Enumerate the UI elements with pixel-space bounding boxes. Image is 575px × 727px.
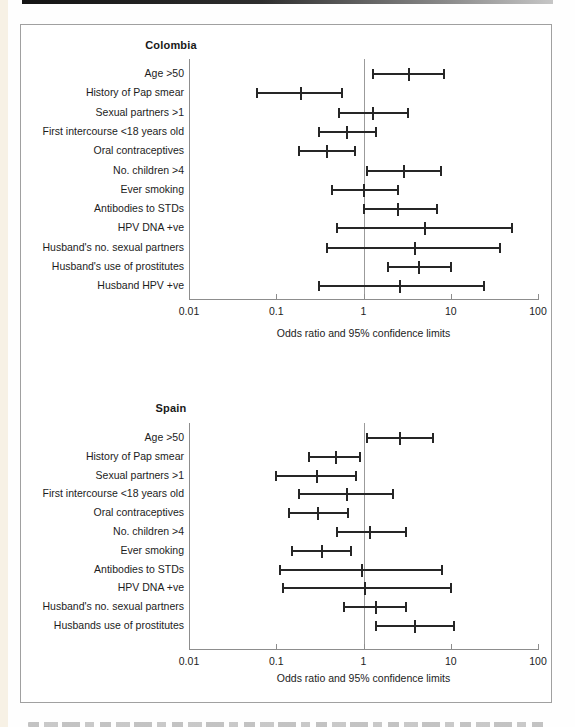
odds-ratio-marker (346, 126, 348, 139)
x-axis-tick (364, 644, 365, 649)
x-axis-line (189, 299, 539, 300)
x-axis-title: Odds ratio and 95% confidence limits (277, 327, 450, 339)
odds-ratio-marker (372, 107, 374, 120)
ci-lower-cap (298, 489, 300, 499)
row-label: No. children >4 (23, 525, 184, 537)
odds-ratio-marker (316, 470, 318, 483)
ci-upper-cap (347, 508, 349, 518)
row-label: Age >50 (23, 67, 184, 79)
ci-lower-cap (372, 69, 374, 79)
row-label: First intercourse <18 years old (23, 487, 184, 499)
ci-lower-cap (288, 508, 290, 518)
ci-upper-cap (407, 108, 409, 118)
ci-lower-cap (275, 471, 277, 481)
row-label: Age >50 (23, 431, 184, 443)
ci-upper-cap (359, 452, 361, 462)
odds-ratio-marker (403, 165, 405, 178)
x-tick-label: 10 (445, 655, 457, 667)
ci-upper-cap (354, 146, 356, 156)
ci-upper-cap (397, 185, 399, 195)
ci-error-bar (337, 531, 407, 533)
ci-upper-cap (432, 433, 434, 443)
ci-upper-cap (441, 565, 443, 575)
panel-title: Colombia (101, 39, 241, 51)
page-edge-strip (0, 0, 8, 727)
x-axis-line (189, 649, 539, 650)
row-label: History of Pap smear (23, 86, 184, 98)
ci-lower-cap (331, 185, 333, 195)
ci-upper-cap (405, 602, 407, 612)
ci-upper-cap (499, 243, 501, 253)
row-label: Oral contraceptives (23, 144, 184, 156)
row-label: Husband's use of prostitutes (23, 260, 184, 272)
ci-lower-cap (336, 223, 338, 233)
ci-lower-cap (291, 546, 293, 556)
row-label: HPV DNA +ve (23, 221, 184, 233)
ci-lower-cap (256, 88, 258, 98)
x-axis-tick (538, 294, 539, 299)
ci-upper-cap (350, 546, 352, 556)
ci-upper-cap (453, 621, 455, 631)
row-label: Oral contraceptives (23, 506, 184, 518)
row-label: Antibodies to STDs (23, 563, 184, 575)
ci-lower-cap (363, 204, 365, 214)
ci-upper-cap (450, 262, 452, 272)
ci-upper-cap (355, 471, 357, 481)
odds-ratio-marker (375, 601, 377, 614)
reference-line-or-1 (364, 59, 365, 299)
ci-error-bar (319, 285, 484, 287)
ci-lower-cap (326, 243, 328, 253)
x-tick-label: 10 (445, 305, 457, 317)
odds-ratio-marker (361, 564, 363, 577)
ci-upper-cap (440, 166, 442, 176)
odds-ratio-marker (399, 280, 401, 293)
plot-left-frame-line (189, 423, 190, 649)
ci-upper-cap (511, 223, 513, 233)
odds-ratio-marker (414, 620, 416, 633)
x-axis-tick (364, 294, 365, 299)
row-label: Sexual partners >1 (23, 469, 184, 481)
odds-ratio-marker (408, 68, 410, 81)
row-label: History of Pap smear (23, 450, 184, 462)
odds-ratio-marker (369, 526, 371, 539)
x-axis-title: Odds ratio and 95% confidence limits (277, 672, 450, 684)
ci-upper-cap (436, 204, 438, 214)
odds-ratio-marker (424, 222, 426, 235)
odds-ratio-marker (397, 203, 399, 216)
x-tick-label: 0.1 (269, 655, 284, 667)
cropped-caption-text (28, 722, 546, 727)
ci-upper-cap (375, 127, 377, 137)
row-label: No. children >4 (23, 164, 184, 176)
x-tick-label: 100 (529, 655, 547, 667)
reference-line-or-1 (364, 423, 365, 649)
x-axis-tick (538, 644, 539, 649)
odds-ratio-marker (321, 545, 323, 558)
row-label: HPV DNA +ve (23, 581, 184, 593)
odds-ratio-marker (317, 507, 319, 520)
ci-error-bar (332, 189, 399, 191)
ci-lower-cap (366, 433, 368, 443)
row-label: First intercourse <18 years old (23, 125, 184, 137)
ci-upper-cap (341, 88, 343, 98)
ci-lower-cap (366, 166, 368, 176)
odds-ratio-marker (363, 184, 365, 197)
x-tick-label: 100 (529, 305, 547, 317)
ci-upper-cap (443, 69, 445, 79)
row-label: Husband's no. sexual partners (23, 241, 184, 253)
ci-lower-cap (343, 602, 345, 612)
row-label: Husband HPV +ve (23, 279, 184, 291)
x-tick-label: 0.01 (179, 305, 199, 317)
x-axis-tick (276, 294, 277, 299)
ci-lower-cap (298, 146, 300, 156)
ci-lower-cap (279, 565, 281, 575)
ci-lower-cap (308, 452, 310, 462)
x-tick-label: 0.1 (269, 305, 284, 317)
x-tick-label: 1 (361, 655, 367, 667)
ci-upper-cap (392, 489, 394, 499)
row-label: Ever smoking (23, 183, 184, 195)
odds-ratio-marker (399, 432, 401, 445)
plot-left-frame-line (189, 59, 190, 299)
ci-lower-cap (282, 583, 284, 593)
row-label: Antibodies to STDs (23, 202, 184, 214)
panel-title: Spain (101, 402, 241, 414)
